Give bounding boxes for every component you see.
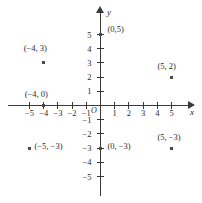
y-tick-label: −1 [76, 115, 92, 125]
y-tick [97, 48, 104, 49]
point-label: (5, 2) [158, 61, 176, 71]
plotted-point [28, 147, 31, 150]
y-tick-label: 1 [76, 86, 92, 96]
y-axis-label: y [107, 7, 111, 17]
plotted-point [170, 76, 173, 79]
y-tick-label: 4 [76, 44, 92, 54]
point-label: (−4, 0) [25, 89, 48, 99]
point-label: (5, −3) [158, 132, 181, 142]
point-label: (0,5) [108, 24, 124, 34]
plotted-point [99, 33, 102, 36]
y-tick [97, 77, 104, 78]
point-label: (−4, 3) [24, 43, 47, 53]
plotted-point [170, 147, 173, 150]
point-label: (0, −3) [108, 141, 131, 151]
x-axis-line [8, 105, 190, 106]
y-tick [97, 119, 104, 120]
y-tick-label: −5 [76, 172, 92, 182]
y-tick [97, 62, 104, 63]
y-tick [97, 133, 104, 134]
y-tick-label: −3 [76, 143, 92, 153]
y-tick-label: −4 [76, 157, 92, 167]
y-axis-arrow-icon [96, 6, 104, 13]
y-tick-label: 2 [76, 72, 92, 82]
y-tick [97, 176, 104, 177]
plotted-point [42, 104, 45, 107]
y-tick-label: −2 [76, 129, 92, 139]
y-tick-label: 5 [76, 30, 92, 40]
coordinate-plane: x y O −5−4−3−2−11234554321−1−2−3−4−5 (0,… [0, 0, 202, 203]
y-tick [97, 162, 104, 163]
plotted-point [99, 147, 102, 150]
x-axis-label: x [190, 107, 194, 117]
y-axis-line [100, 12, 101, 196]
x-tick-label: 5 [164, 108, 180, 118]
point-label: (−5, −3) [35, 141, 63, 151]
plotted-point [42, 61, 45, 64]
y-tick-label: 3 [76, 58, 92, 68]
y-tick [97, 91, 104, 92]
